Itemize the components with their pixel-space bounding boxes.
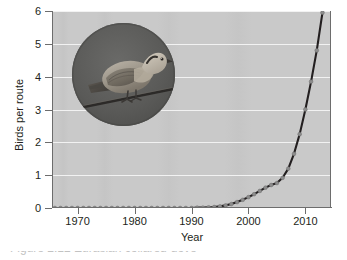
y-tick-mark: [45, 175, 52, 176]
y-tick-label: 3: [11, 104, 41, 115]
figure-container: Birds per route 0123456: [0, 0, 347, 260]
data-point: [292, 152, 296, 156]
y-tick-label: 6: [11, 6, 41, 17]
data-point: [241, 198, 245, 202]
data-point: [321, 11, 325, 15]
data-point: [298, 132, 302, 136]
x-axis-title: Year: [52, 231, 332, 243]
y-tick-mark: [45, 110, 52, 111]
x-tick-mark: [305, 208, 306, 214]
x-tick-label: 1980: [113, 216, 157, 227]
data-point: [229, 202, 233, 206]
x-tick-mark: [135, 208, 136, 214]
data-point: [309, 80, 313, 84]
data-point: [258, 189, 262, 193]
data-point: [303, 108, 307, 112]
y-tick-mark: [45, 142, 52, 143]
y-tick-mark: [45, 44, 52, 45]
x-tick-label: 2000: [226, 216, 270, 227]
data-point: [235, 200, 239, 204]
y-tick-mark: [45, 77, 52, 78]
figure-caption-clipped: Figure 2.12 Eurasian collared-dove: [10, 251, 270, 260]
x-tick-label: 1990: [170, 216, 214, 227]
data-point: [275, 181, 279, 185]
y-tick-mark: [45, 208, 52, 209]
plot-area: [52, 11, 331, 208]
x-tick-label: 1970: [56, 216, 100, 227]
data-point: [315, 49, 319, 53]
y-axis-line: [52, 11, 53, 208]
y-tick-label: 2: [11, 137, 41, 148]
figure-caption-text: Figure 2.12 Eurasian collared-dove: [10, 251, 197, 254]
x-tick-mark: [192, 208, 193, 214]
data-point: [264, 186, 268, 190]
inset-photo-dove: [72, 23, 175, 126]
x-tick-mark: [78, 208, 79, 214]
y-tick-label: 1: [11, 170, 41, 181]
dove-photo-graphic: [72, 23, 175, 126]
y-tick-label: 4: [11, 71, 41, 82]
data-point: [269, 183, 273, 187]
data-point: [286, 167, 290, 171]
y-tick-mark: [45, 11, 52, 12]
x-tick-label: 2010: [283, 216, 327, 227]
x-tick-mark: [248, 208, 249, 214]
data-point: [252, 192, 256, 196]
data-point: [281, 176, 285, 180]
y-tick-label: 5: [11, 38, 41, 49]
data-point: [247, 195, 251, 199]
y-tick-label: 0: [11, 203, 41, 214]
